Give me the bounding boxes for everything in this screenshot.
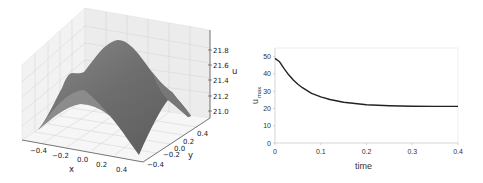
y-tick-label: 10 <box>263 122 271 129</box>
y-tick-label: 40 <box>263 70 271 77</box>
z-tick-label: 21.2 <box>213 93 229 101</box>
x-tick-label: −0.2 <box>52 152 69 160</box>
y-axis-label: u max <box>250 87 262 104</box>
x-tick-label: −0.4 <box>30 147 48 155</box>
y-tick-label: 0 <box>267 140 271 147</box>
x-tick-label: 0.4 <box>453 148 463 155</box>
plot-area <box>275 48 458 143</box>
x-tick-label: 0.1 <box>316 148 326 155</box>
z-tick-label: 21.4 <box>213 77 229 85</box>
y-tick-label: −0.4 <box>147 161 165 169</box>
y-axis-ticks: 01020304050 <box>263 53 275 146</box>
x-tick-label: 0.3 <box>407 148 417 155</box>
y-tick-label: 0.4 <box>197 130 209 138</box>
y-tick-label: 0.2 <box>183 138 194 146</box>
svg-text:max: max <box>256 87 262 98</box>
z-axis-label: u <box>232 66 237 76</box>
y-axis-label: y <box>188 150 193 160</box>
z-tick-label: 21.8 <box>213 47 229 55</box>
x-axis-label: time <box>355 161 372 171</box>
x-axis-ticks: 00.10.20.30.4 <box>273 143 463 155</box>
svg-text:u: u <box>250 99 260 104</box>
x-axis-label: x <box>69 164 74 174</box>
z-tick-label: 21.0 <box>213 108 229 116</box>
x-tick-label: 0.2 <box>362 148 372 155</box>
x-tick-label: 0 <box>273 148 277 155</box>
y-tick-label: 50 <box>263 53 271 60</box>
z-tick-label: 21.6 <box>213 62 229 70</box>
x-tick-label: 0.4 <box>116 166 128 174</box>
y-tick-label: 20 <box>263 105 271 112</box>
y-tick-label: 30 <box>263 88 271 95</box>
line-chart: 01020304050 00.10.20.30.4 time u max <box>250 48 463 171</box>
y-tick-label: 0.0 <box>174 145 185 153</box>
z-axis-ticks: 21.8 21.6 21.4 21.2 21.0 <box>208 47 229 116</box>
x-tick-label: 0.2 <box>96 161 107 169</box>
x-tick-label: 0.0 <box>77 156 88 164</box>
surface-plot-3d: 21.8 21.6 21.4 21.2 21.0 u −0.4 −0.2 0.0… <box>22 8 237 174</box>
figure: 21.8 21.6 21.4 21.2 21.0 u −0.4 −0.2 0.0… <box>0 0 483 183</box>
